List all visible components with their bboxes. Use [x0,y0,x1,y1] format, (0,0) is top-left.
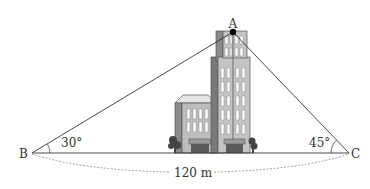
distance-label: 120 m [174,166,213,180]
angle-b-label: 30° [61,136,82,150]
point-a-label: A [228,17,238,31]
line-ac [233,32,349,153]
tall-tower [211,31,250,153]
angle-c-label: 45° [309,136,330,150]
building-elevation-diagram: A B C 30° 45° 120 m [0,0,370,189]
angle-arc-c [331,140,336,153]
point-c-label: C [351,147,360,161]
angle-arc-b [47,144,50,153]
point-b-label: B [19,147,28,161]
distance-arc-left [32,154,170,172]
distance-arc-right [214,154,349,172]
short-building [175,95,215,153]
building-illustration [168,31,258,153]
